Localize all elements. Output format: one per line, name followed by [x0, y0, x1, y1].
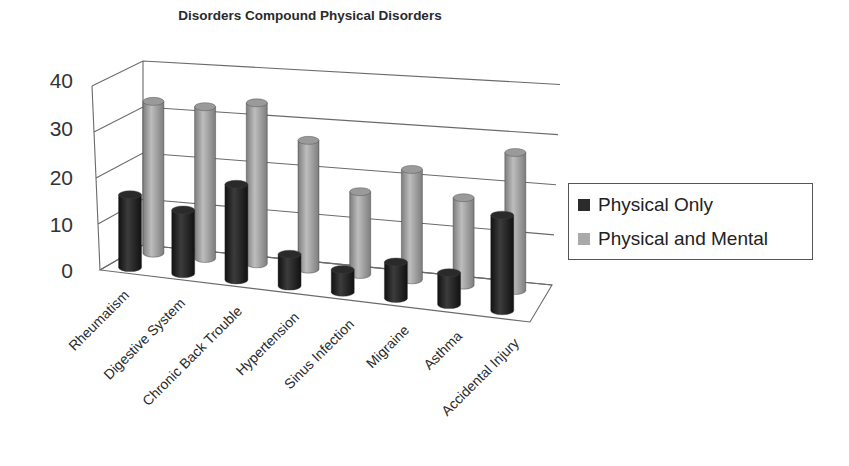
y-axis-tick-labels: 010203040 [50, 69, 73, 282]
bar-physical-only [384, 258, 407, 302]
legend-swatch-icon [578, 199, 590, 211]
x-category-label: Asthma [420, 328, 465, 373]
bar-physical-and-mental [298, 136, 319, 273]
bar-physical-only [331, 265, 354, 296]
left-wall-front-edge [92, 86, 100, 270]
bar-physical-and-mental [246, 99, 267, 268]
y-tick-label: 0 [61, 259, 73, 282]
bar-physical-only [491, 211, 514, 315]
y-tick-label: 40 [50, 69, 73, 92]
bar-physical-and-mental [143, 97, 164, 257]
chart-legend: Physical Only Physical and Mental [568, 183, 813, 260]
bar-physical-only [438, 269, 461, 309]
bar-physical-and-mental [195, 103, 216, 263]
bar-physical-and-mental [350, 188, 371, 279]
gridline [96, 153, 556, 185]
bar-physical-only [278, 250, 301, 290]
y-tick-label: 20 [50, 166, 73, 189]
gridline [98, 199, 554, 235]
bar-physical-only [172, 206, 195, 278]
x-category-label: Rheumatism [65, 287, 132, 354]
legend-item-physical-and-mental: Physical and Mental [578, 228, 768, 250]
y-tick-label: 10 [50, 213, 73, 236]
bar-physical-only [119, 191, 142, 272]
x-category-label: Migraine [363, 322, 412, 371]
gridline [92, 61, 560, 86]
legend-item-physical-only: Physical Only [578, 194, 713, 216]
floor-back-edge [100, 245, 552, 285]
chart-bars [119, 97, 526, 314]
legend-label: Physical Only [598, 194, 713, 216]
legend-label: Physical and Mental [598, 228, 768, 250]
bar-physical-only [225, 180, 248, 284]
legend-swatch-icon [578, 233, 590, 245]
x-category-label: Hypertension [232, 309, 302, 379]
y-tick-label: 30 [50, 117, 73, 140]
